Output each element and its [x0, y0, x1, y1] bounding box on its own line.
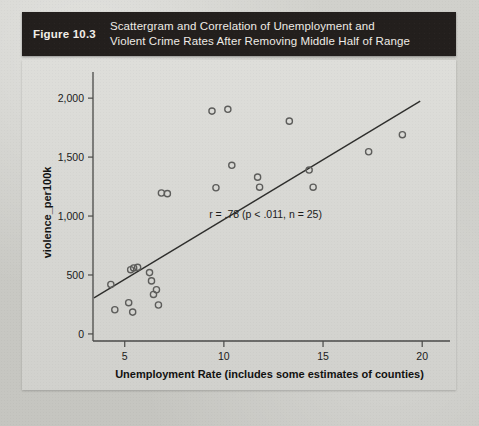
data-point	[209, 108, 215, 114]
annotation-group: r = .78 (p < .011, n = 25)	[209, 208, 322, 220]
figure-title-line-1: Scattergram and Correlation of Unemploym…	[110, 19, 410, 34]
scatter-plot: 05001,0001,5002,0005101520 Unemployment …	[22, 60, 456, 390]
y-axis-tick-label: 0	[78, 328, 84, 340]
data-point	[135, 264, 141, 270]
data-point	[225, 106, 231, 112]
chart-panel: 05001,0001,5002,0005101520 Unemployment …	[22, 60, 456, 390]
data-point	[366, 149, 372, 155]
data-point	[148, 278, 154, 284]
figure-title-line-2: Violent Crime Rates After Removing Middl…	[110, 34, 410, 49]
x-axis-title: Unemployment Rate (includes some estimat…	[115, 368, 424, 380]
data-point	[130, 309, 136, 315]
x-axis-tick-label: 20	[416, 350, 428, 362]
data-point	[229, 162, 235, 168]
data-point	[126, 300, 132, 306]
y-axis-tick-label: 1,500	[58, 151, 84, 163]
data-point	[150, 291, 156, 297]
data-point	[399, 132, 405, 138]
x-axis-tick-label: 15	[317, 350, 329, 362]
axis-labels-group: Unemployment Rate (includes some estimat…	[41, 166, 424, 380]
data-point	[256, 184, 262, 190]
data-point	[112, 307, 118, 313]
correlation-annotation: r = .78 (p < .011, n = 25)	[209, 208, 322, 220]
y-axis-tick-label: 1,000	[58, 210, 84, 222]
y-axis-title: violence_per100k	[41, 166, 53, 259]
regression-line	[94, 101, 420, 298]
data-point	[286, 118, 292, 124]
data-point	[164, 191, 170, 197]
x-axis-tick-label: 10	[218, 350, 230, 362]
data-point	[155, 302, 161, 308]
data-point	[108, 281, 114, 287]
figure-caption-bar: Figure 10.3 Scattergram and Correlation …	[22, 12, 456, 56]
regression-line-group	[94, 101, 420, 298]
data-point	[213, 185, 219, 191]
data-point	[255, 174, 261, 180]
data-point	[146, 270, 152, 276]
figure-title: Scattergram and Correlation of Unemploym…	[110, 19, 410, 49]
x-axis-tick-label: 5	[122, 350, 128, 362]
data-point	[158, 190, 164, 196]
y-axis-tick-label: 500	[66, 269, 84, 281]
data-point	[310, 184, 316, 190]
y-axis-tick-label: 2,000	[58, 92, 84, 104]
figure-number: Figure 10.3	[33, 28, 96, 40]
page-background: Figure 10.3 Scattergram and Correlation …	[0, 0, 479, 426]
